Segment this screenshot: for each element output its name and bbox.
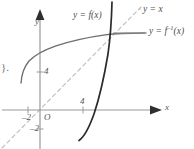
identity-line-label: y = x xyxy=(143,5,163,15)
curve-f xyxy=(79,2,112,141)
tick-label-x-4: 4 xyxy=(80,97,85,106)
function-inverse-graph: }. y x O –2 4 4 –2 y = f(x) y = x y = f–… xyxy=(0,0,194,149)
adjacent-text-fragment: }. xyxy=(1,62,9,73)
curve-f-inverse-label: y = f–1(x) xyxy=(149,25,184,37)
curve-f-inverse-label-prefix: y = f xyxy=(149,26,167,36)
x-axis-arrow-icon xyxy=(150,105,162,114)
origin-label: O xyxy=(44,113,51,122)
y-axis-label: y xyxy=(35,17,39,26)
curve-f-inverse-label-suffix: (x) xyxy=(174,26,185,36)
tick-label-y-4: 4 xyxy=(44,67,49,76)
identity-line-y-equals-x xyxy=(2,7,141,148)
tick-label-y-minus2: –2 xyxy=(30,124,39,133)
tick-label-x-minus2: –2 xyxy=(22,113,31,122)
x-axis-label: x xyxy=(165,103,169,112)
curve-f-label: y = f(x) xyxy=(73,11,102,21)
